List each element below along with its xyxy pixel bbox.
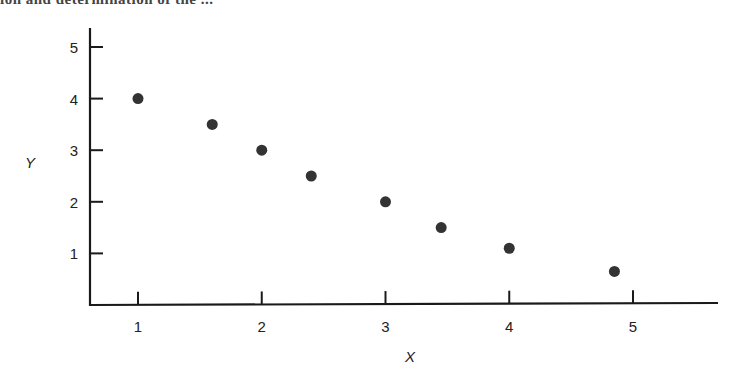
axes: 1234512345 <box>70 28 718 335</box>
data-point <box>380 196 391 207</box>
scatter-chart: 1234512345 XY <box>0 0 740 376</box>
y-tick-label: 5 <box>70 39 78 56</box>
y-tick-label: 1 <box>70 245 78 262</box>
y-tick-label: 4 <box>70 91 78 108</box>
x-tick-label: 4 <box>505 318 513 335</box>
data-point <box>256 145 267 156</box>
y-axis-label: Y <box>25 154 36 171</box>
data-point <box>207 119 218 130</box>
data-points <box>133 93 620 277</box>
x-tick-label: 5 <box>629 318 637 335</box>
data-point <box>609 266 620 277</box>
data-point <box>133 93 144 104</box>
y-tick-label: 3 <box>70 142 78 159</box>
y-tick-label: 2 <box>70 194 78 211</box>
x-axis-label: X <box>404 348 416 365</box>
axis-labels: XY <box>25 154 416 365</box>
x-tick-label: 2 <box>258 318 266 335</box>
data-point <box>306 171 317 182</box>
data-point <box>504 243 515 254</box>
x-tick-label: 3 <box>381 318 389 335</box>
x-tick-label: 1 <box>134 318 142 335</box>
x-axis-line <box>89 303 718 305</box>
data-point <box>436 222 447 233</box>
